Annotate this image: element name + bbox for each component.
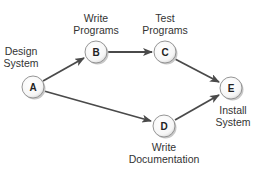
node-e-letter: E [228,83,235,94]
node-b-letter: B [92,47,99,58]
network-diagram: A B C D E A B C [0,0,264,169]
edge-d-e [175,95,219,120]
edge-a-d [44,91,151,121]
node-c: C [154,41,178,65]
node-c-letter: C [161,47,168,58]
edges [43,52,219,121]
node-a-letter: A [29,82,36,93]
label-test-programs: Test Programs [142,12,188,36]
edge-c-e [175,59,219,82]
nodes: A B C D E [22,41,244,139]
node-d-letter: D [160,121,167,132]
label-d-line1: Write [129,141,200,153]
label-c-line2: Programs [142,24,188,36]
label-c-line1: Test [142,12,188,24]
label-design-system: Design System [3,45,38,69]
label-a-line1: Design [3,45,38,57]
edge-a-b [43,58,84,81]
label-e-line1: Install [215,104,250,116]
label-d-line2: Documentation [129,153,200,165]
label-write-programs: Write Programs [73,12,119,36]
label-b-line1: Write [73,12,119,24]
node-d: D [153,115,177,139]
label-a-line2: System [3,57,38,69]
label-write-documentation: Write Documentation [129,141,200,165]
node-a: A [22,76,46,100]
label-install-system: Install System [215,104,250,128]
label-e-line2: System [215,116,250,128]
node-b: B [85,41,109,65]
node-e: E [220,77,244,101]
label-b-line2: Programs [73,24,119,36]
